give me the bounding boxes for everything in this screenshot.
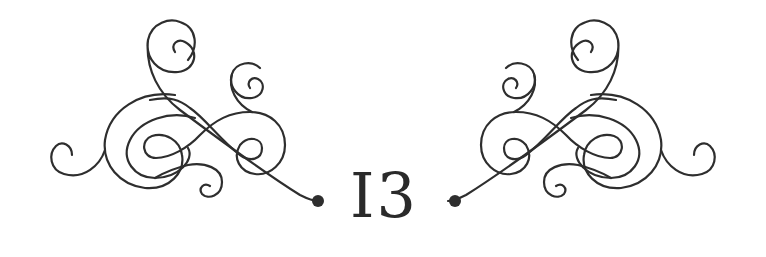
- chapter-number: I3: [336, 146, 432, 246]
- dot-right-icon: [449, 195, 461, 207]
- flourish-right-icon: [448, 21, 715, 201]
- dot-left-icon: [312, 195, 324, 207]
- flourish-left-icon: [51, 21, 318, 201]
